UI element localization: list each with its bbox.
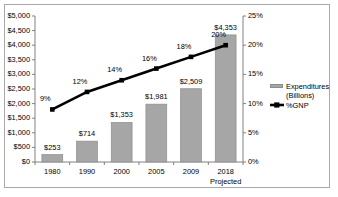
- legend-line-marker-canvas: [5, 5, 331, 189]
- chart-plot-root: $0$500$1,000$1,500$2,000$2,500$3,000$3,5…: [5, 5, 331, 189]
- legend-label-gnp: %GNP: [286, 101, 309, 110]
- chart-frame: $0$500$1,000$1,500$2,000$2,500$3,000$3,5…: [4, 4, 330, 188]
